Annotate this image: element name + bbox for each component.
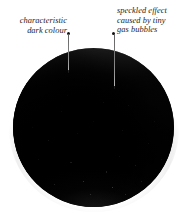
annotation-dark-colour: characteristic dark colour (11, 16, 67, 35)
sphere-edge-vignette (13, 48, 174, 207)
annotation-speckled-line-2: caused by tiny (117, 16, 191, 26)
annotation-speckled-effect: speckled effect caused by tiny gas bubbl… (117, 6, 191, 35)
annotation-speckled-line-3: gas bubbles (117, 25, 191, 35)
dark-sphere (13, 48, 174, 207)
sphere-container (13, 48, 175, 208)
leader-line-dark-colour (68, 34, 69, 70)
annotation-speckled-line-1: speckled effect (117, 6, 191, 16)
specimen-figure: characteristic dark colour speckled effe… (0, 0, 192, 214)
leader-line-speckled-effect (114, 34, 115, 86)
annotation-dark-colour-line-2: dark colour (11, 26, 67, 36)
annotation-dark-colour-line-1: characteristic (11, 16, 67, 26)
